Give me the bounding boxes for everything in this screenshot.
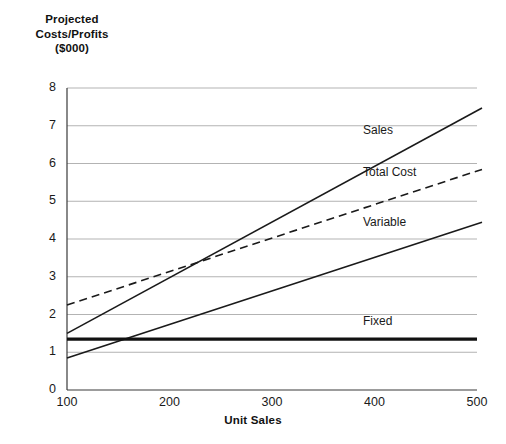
series-line-total-cost: [67, 169, 482, 305]
x-tick-label-400: 400: [350, 396, 400, 409]
series-label-fixed: Fixed: [363, 315, 392, 328]
series-label-total-cost: Total Cost: [363, 166, 416, 179]
y-tick-label-8: 8: [30, 81, 56, 94]
x-tick-label-300: 300: [247, 396, 297, 409]
series-label-variable: Variable: [363, 216, 406, 229]
chart-container: Projected Costs/Profits ($000) 012345678…: [0, 0, 506, 444]
y-tick-label-7: 7: [30, 119, 56, 132]
y-tick-label-5: 5: [30, 194, 56, 207]
series-line-sales: [67, 108, 482, 333]
y-tick-label-1: 1: [30, 345, 56, 358]
y-tick-label-2: 2: [30, 308, 56, 321]
x-tick-label-100: 100: [42, 396, 92, 409]
y-tick-label-0: 0: [30, 383, 56, 396]
y-tick-label-3: 3: [30, 270, 56, 283]
x-axis-title: Unit Sales: [0, 414, 506, 426]
gridlines: [67, 88, 477, 390]
series-lines: [67, 108, 482, 358]
y-tick-label-4: 4: [30, 232, 56, 245]
x-tick-label-500: 500: [452, 396, 502, 409]
plot-area: [0, 0, 506, 444]
y-tick-label-6: 6: [30, 157, 56, 170]
series-label-sales: Sales: [363, 124, 393, 137]
x-tick-label-200: 200: [145, 396, 195, 409]
